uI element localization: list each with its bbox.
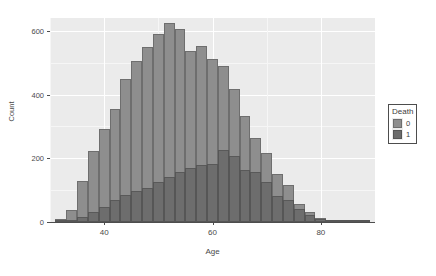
legend: Death 01 (388, 104, 417, 144)
histogram-bar (294, 209, 305, 222)
legend-key (392, 129, 403, 140)
y-tick-mark (47, 158, 50, 159)
histogram-bar (196, 165, 207, 222)
histogram-bar (164, 177, 175, 222)
histogram-bar (272, 196, 283, 222)
histogram-bar (120, 195, 131, 222)
plot-panel (50, 18, 375, 222)
y-tick-label: 600 (18, 26, 44, 35)
histogram-bar (207, 164, 218, 222)
histogram-bar (153, 182, 164, 222)
x-tick-label: 80 (316, 228, 325, 237)
legend-item: 0 (392, 118, 413, 129)
legend-items: 01 (392, 118, 413, 140)
histogram-bar (110, 200, 121, 222)
histogram-bar (99, 207, 110, 222)
histogram-figure: Count 0200400600 406080 Age Death 01 (0, 0, 436, 276)
x-axis-title: Age (50, 247, 375, 256)
histogram-bar (185, 168, 196, 222)
legend-item: 1 (392, 129, 413, 140)
histogram-bar (142, 188, 153, 222)
gridline-minor-x (50, 18, 51, 222)
gridline-major-x (321, 18, 322, 222)
y-tick-mark (47, 95, 50, 96)
legend-title: Death (392, 107, 413, 116)
histogram-bar (240, 170, 251, 222)
histogram-bar (175, 172, 186, 222)
y-tick-label: 0 (18, 218, 44, 227)
histogram-bar (77, 181, 88, 222)
histogram-bar (229, 156, 240, 222)
legend-item-label: 0 (406, 118, 410, 129)
legend-key (392, 118, 403, 129)
histogram-bar (131, 191, 142, 222)
y-tick-mark (47, 31, 50, 32)
x-tick-mark (213, 222, 214, 225)
x-axis-tick-labels: 406080 (0, 228, 436, 242)
y-tick-label: 400 (18, 90, 44, 99)
legend-color-swatch (393, 119, 402, 128)
histogram-bar (283, 200, 294, 222)
y-tick-mark (47, 222, 50, 223)
x-tick-label: 40 (100, 228, 109, 237)
legend-item-label: 1 (406, 129, 410, 140)
y-tick-label: 200 (18, 154, 44, 163)
x-tick-mark (104, 222, 105, 225)
histogram-bar (261, 182, 272, 222)
histogram-bar (218, 150, 229, 222)
legend-color-swatch (393, 130, 402, 139)
y-axis-title-text: Count (7, 101, 16, 121)
x-tick-label: 60 (208, 228, 217, 237)
x-tick-mark (321, 222, 322, 225)
histogram-bar (250, 172, 261, 222)
